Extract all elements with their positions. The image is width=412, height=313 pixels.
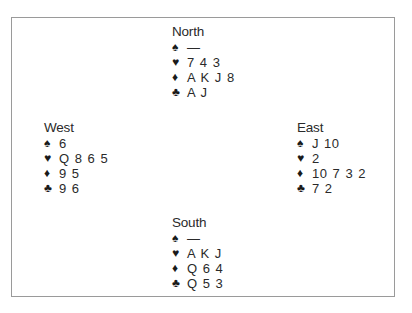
club-icon: ♣ [172, 85, 187, 100]
hand-west: West ♠ 6 ♥ Q 8 6 5 ♦ 9 5 ♣ 9 6 [44, 120, 108, 196]
hand-west-label: West [44, 120, 108, 135]
west-diamonds-row: ♦ 9 5 [44, 166, 108, 181]
north-hearts: 7 4 3 [187, 55, 220, 70]
east-hearts: 2 [312, 151, 320, 166]
heart-icon: ♥ [297, 151, 312, 166]
hand-east: East ♠ J 10 ♥ 2 ♦ 10 7 3 2 ♣ 7 2 [297, 120, 366, 196]
club-icon: ♣ [172, 276, 187, 291]
south-hearts: A K J [187, 246, 222, 261]
south-spades: — [187, 231, 201, 246]
heart-icon: ♥ [172, 55, 187, 70]
west-diamonds: 9 5 [59, 166, 80, 181]
west-clubs: 9 6 [59, 181, 80, 196]
south-hearts-row: ♥ A K J [172, 246, 223, 261]
west-spades: 6 [59, 136, 67, 151]
south-clubs: Q 5 3 [187, 276, 223, 291]
spade-icon: ♠ [44, 136, 59, 151]
spade-icon: ♠ [297, 136, 312, 151]
west-spades-row: ♠ 6 [44, 136, 108, 151]
hand-north-label: North [172, 24, 235, 39]
north-clubs: A J [187, 85, 208, 100]
hand-north: North ♠ — ♥ 7 4 3 ♦ A K J 8 ♣ A J [172, 24, 235, 100]
east-hearts-row: ♥ 2 [297, 151, 366, 166]
heart-icon: ♥ [172, 246, 187, 261]
north-clubs-row: ♣ A J [172, 85, 235, 100]
east-clubs: 7 2 [312, 181, 333, 196]
east-spades-row: ♠ J 10 [297, 136, 366, 151]
club-icon: ♣ [44, 181, 59, 196]
north-diamonds-row: ♦ A K J 8 [172, 70, 235, 85]
south-diamonds: Q 6 4 [187, 261, 223, 276]
west-hearts-row: ♥ Q 8 6 5 [44, 151, 108, 166]
east-clubs-row: ♣ 7 2 [297, 181, 366, 196]
diamond-icon: ♦ [44, 166, 59, 181]
diamond-icon: ♦ [172, 70, 187, 85]
north-diamonds: A K J 8 [187, 70, 235, 85]
hand-south-label: South [172, 215, 223, 230]
hand-south: South ♠ — ♥ A K J ♦ Q 6 4 ♣ Q 5 3 [172, 215, 223, 291]
spade-icon: ♠ [172, 231, 187, 246]
west-clubs-row: ♣ 9 6 [44, 181, 108, 196]
club-icon: ♣ [297, 181, 312, 196]
east-diamonds-row: ♦ 10 7 3 2 [297, 166, 366, 181]
north-hearts-row: ♥ 7 4 3 [172, 55, 235, 70]
north-spades: — [187, 40, 201, 55]
north-spades-row: ♠ — [172, 40, 235, 55]
east-diamonds: 10 7 3 2 [312, 166, 366, 181]
south-clubs-row: ♣ Q 5 3 [172, 276, 223, 291]
heart-icon: ♥ [44, 151, 59, 166]
spade-icon: ♠ [172, 40, 187, 55]
diamond-icon: ♦ [297, 166, 312, 181]
south-spades-row: ♠ — [172, 231, 223, 246]
west-hearts: Q 8 6 5 [59, 151, 108, 166]
south-diamonds-row: ♦ Q 6 4 [172, 261, 223, 276]
hand-east-label: East [297, 120, 366, 135]
diamond-icon: ♦ [172, 261, 187, 276]
east-spades: J 10 [312, 136, 340, 151]
